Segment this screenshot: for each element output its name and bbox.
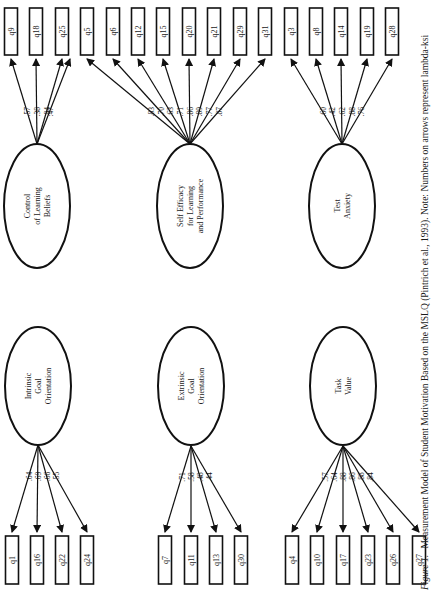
loading-arrow	[343, 446, 419, 532]
factor-label-line: Extrinsic	[177, 371, 186, 400]
measurement-model-diagram: q9q18q25q5q6q12q15q20q21q29q31q3q8q14q19…	[0, 0, 436, 594]
item-label: q31	[261, 26, 270, 38]
factor-testanxiety: TestAnxiety	[309, 144, 375, 268]
item-box-q29: q29	[234, 8, 247, 55]
loading-arrow	[38, 445, 62, 532]
item-label: q21	[210, 26, 219, 38]
item-label: q8	[312, 28, 321, 36]
loading-arrow	[163, 59, 190, 144]
item-label: q16	[33, 554, 42, 566]
loading-arrow	[291, 59, 342, 144]
loading-arrow	[342, 59, 392, 144]
item-label: q19	[363, 26, 372, 38]
loading-value: .86	[186, 107, 195, 117]
factor-extrinsic: ExtrinsicGoalOrientation	[158, 327, 224, 445]
loading-arrow	[191, 446, 241, 532]
loading-value: .71	[178, 472, 187, 482]
item-box-q4: q4	[286, 536, 299, 584]
loading-arrow	[12, 445, 38, 532]
item-box-q25: q25	[56, 8, 69, 55]
loading-value: .47	[46, 107, 55, 117]
diagram-canvas: q9q18q25q5q6q12q15q20q21q29q31q3q8q14q19…	[0, 0, 436, 594]
loading-arrow	[189, 59, 190, 144]
loading-value: .63	[166, 107, 175, 117]
loading-value: .76	[357, 107, 366, 117]
loading-value: .69	[34, 471, 43, 481]
loading-arrows	[11, 59, 419, 532]
item-box-q31: q31	[259, 8, 272, 55]
item-box-q23: q23	[362, 536, 375, 584]
item-box-q16: q16	[31, 536, 44, 584]
item-label: q15	[159, 26, 168, 38]
item-box-q6: q6	[107, 8, 120, 55]
item-label: q9	[7, 28, 16, 36]
item-box-q24: q24	[81, 536, 94, 584]
loading-arrow	[37, 59, 62, 144]
loading-value: .83	[147, 107, 156, 117]
item-label: q7	[161, 556, 170, 564]
item-label: q14	[337, 26, 346, 38]
loading-value: .87	[215, 107, 224, 117]
factor-label-line: Test	[333, 199, 342, 213]
loading-value: .48	[196, 472, 205, 482]
item-label: q28	[388, 26, 397, 38]
item-label: q13	[212, 554, 221, 566]
item-label: q25	[58, 26, 67, 38]
loading-value: .44	[205, 472, 214, 482]
item-box-q12: q12	[132, 8, 145, 55]
item-label: q29	[236, 26, 245, 38]
loading-value: .57	[23, 107, 32, 117]
loading-arrow	[113, 59, 190, 144]
item-box-q8: q8	[310, 8, 323, 55]
item-box-q20: q20	[183, 8, 196, 55]
item-box-q13: q13	[210, 536, 223, 584]
loading-arrow	[292, 446, 343, 532]
item-label: q4	[288, 556, 297, 564]
svg-text:Figure 1. Measurement: Figure 1. Measurement Model of Student M…	[420, 35, 431, 591]
factor-label-line: Orientation	[197, 368, 206, 404]
factor-label-line: Self Efficacy	[176, 185, 185, 227]
item-label: q23	[364, 554, 373, 566]
factor-label-line: Control	[23, 193, 32, 218]
loading-arrow	[37, 59, 70, 144]
loading-value: .55	[52, 471, 61, 481]
item-label: q30	[237, 554, 246, 566]
loading-arrow	[165, 446, 191, 532]
loading-value: .84	[366, 472, 375, 482]
factor-label-line: Orientation	[44, 368, 53, 404]
item-box-q18: q18	[30, 8, 43, 55]
loading-value: .58	[187, 472, 196, 482]
loading-arrow	[341, 59, 342, 144]
factor-label-line: Goal	[34, 377, 43, 393]
item-box-q19: q19	[361, 8, 374, 55]
item-label: q18	[32, 26, 41, 38]
item-box-q30: q30	[235, 536, 248, 584]
item-box-q21: q21	[208, 8, 221, 55]
loading-value: .42	[328, 107, 337, 117]
caption-text: Measurement Model of Student Motivation …	[420, 35, 431, 549]
loading-value: .89	[195, 107, 204, 117]
loading-value: .88	[357, 472, 366, 482]
loading-arrow	[11, 59, 37, 144]
factor-intrinsic: IntrinsicGoalOrientation	[5, 327, 71, 445]
caption-label: Figure 1.	[420, 555, 430, 591]
item-label: q12	[134, 26, 143, 38]
loading-value: .57	[321, 472, 330, 482]
item-box-q9: q9	[5, 8, 18, 55]
loading-arrow	[38, 445, 87, 532]
loading-value: .88	[348, 107, 357, 117]
loading-value: .66	[43, 471, 52, 481]
item-box-q22: q22	[56, 536, 69, 584]
item-box-q15: q15	[157, 8, 170, 55]
item-label: q24	[83, 554, 92, 566]
loading-arrow	[87, 59, 190, 144]
item-box-q11: q11	[185, 536, 198, 584]
loading-arrow	[190, 59, 240, 144]
item-box-q3: q3	[285, 8, 298, 55]
loading-arrow	[37, 445, 38, 532]
factor-label-line: and Performance	[196, 178, 205, 233]
item-box-q14: q14	[335, 8, 348, 55]
loading-arrow	[190, 59, 265, 144]
factor-ellipse	[309, 144, 375, 268]
factor-ellipse	[310, 327, 376, 445]
